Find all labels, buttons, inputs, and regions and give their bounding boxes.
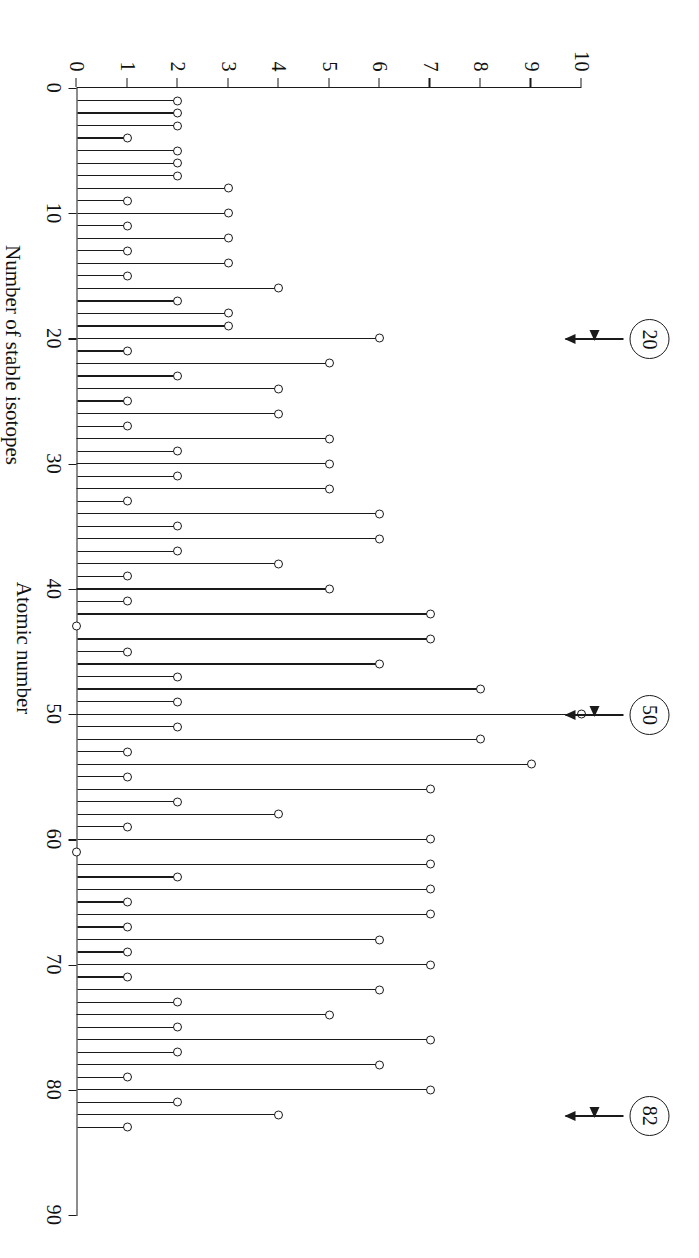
stem-marker bbox=[425, 960, 434, 969]
stem-marker bbox=[375, 935, 384, 944]
stem-marker bbox=[122, 221, 131, 230]
y-tick bbox=[126, 78, 127, 87]
stem-marker bbox=[122, 897, 131, 906]
stem-marker bbox=[375, 334, 384, 343]
stem-line bbox=[77, 1089, 430, 1090]
stem-marker bbox=[122, 271, 131, 280]
x-tick-label: 90 bbox=[43, 1205, 63, 1226]
stem-marker bbox=[324, 459, 333, 468]
x-tick-label: 20 bbox=[43, 328, 63, 349]
stem-marker bbox=[173, 697, 182, 706]
stem-line bbox=[77, 438, 329, 439]
arrow-head-icon bbox=[564, 334, 575, 344]
stem-marker bbox=[173, 159, 182, 168]
x-tick-label: 0 bbox=[43, 83, 63, 94]
stem-line bbox=[77, 964, 430, 965]
stem-marker bbox=[223, 309, 232, 318]
stem-line bbox=[77, 1039, 430, 1040]
x-tick bbox=[68, 88, 76, 89]
annotation-arrow-icon bbox=[565, 338, 623, 340]
y-tick bbox=[176, 78, 177, 87]
stem-marker bbox=[425, 1035, 434, 1044]
x-tick bbox=[68, 213, 76, 214]
stem-marker bbox=[173, 797, 182, 806]
stem-line bbox=[77, 1002, 178, 1003]
stem-line bbox=[77, 200, 127, 201]
stem-marker bbox=[122, 597, 131, 606]
stem-line bbox=[77, 876, 178, 877]
stem-marker bbox=[173, 121, 182, 130]
stem-line bbox=[77, 814, 279, 815]
stem-marker bbox=[122, 572, 131, 581]
stem-marker bbox=[173, 722, 182, 731]
stem-marker bbox=[122, 747, 131, 756]
stem-marker bbox=[122, 772, 131, 781]
stem-line bbox=[77, 801, 178, 802]
x-tick bbox=[68, 338, 76, 339]
stem-marker bbox=[173, 472, 182, 481]
stem-line bbox=[77, 638, 430, 639]
stem-line bbox=[77, 1014, 329, 1015]
stem-line bbox=[77, 1027, 178, 1028]
stem-marker bbox=[324, 1010, 333, 1019]
annotation-arrow-icon bbox=[565, 714, 623, 716]
stem-marker bbox=[122, 397, 131, 406]
stem-marker bbox=[425, 910, 434, 919]
x-tick-label: 80 bbox=[43, 1079, 63, 1100]
stem-line bbox=[77, 501, 127, 502]
stem-marker bbox=[173, 1098, 182, 1107]
stem-line bbox=[77, 400, 127, 401]
stem-marker bbox=[526, 760, 535, 769]
stem-line bbox=[77, 213, 228, 214]
y-tick bbox=[378, 78, 379, 87]
stem-line bbox=[77, 926, 127, 927]
stem-marker bbox=[324, 484, 333, 493]
stem-line bbox=[77, 1064, 380, 1065]
stem-marker bbox=[173, 109, 182, 118]
stem-line bbox=[77, 313, 228, 314]
arrow-head-icon bbox=[564, 1111, 575, 1121]
stem-marker bbox=[274, 1110, 283, 1119]
stem-marker bbox=[122, 196, 131, 205]
stem-line bbox=[77, 538, 380, 539]
stem-marker bbox=[72, 622, 81, 631]
stem-line bbox=[77, 976, 127, 977]
stem-marker bbox=[122, 647, 131, 656]
stem-line bbox=[77, 688, 481, 689]
y-tick-label: 3 bbox=[218, 44, 238, 72]
x-tick bbox=[68, 589, 76, 590]
stem-line bbox=[77, 300, 178, 301]
stem-line bbox=[77, 601, 127, 602]
stem-line bbox=[77, 388, 279, 389]
stem-line bbox=[77, 137, 127, 138]
stem-line bbox=[77, 563, 279, 564]
stem-marker bbox=[122, 134, 131, 143]
stem-marker bbox=[173, 1023, 182, 1032]
stem-marker bbox=[173, 146, 182, 155]
stem-line bbox=[77, 1102, 178, 1103]
stem-marker bbox=[122, 922, 131, 931]
x-tick-label: 50 bbox=[43, 704, 63, 725]
stem-marker bbox=[223, 209, 232, 218]
annotation-arrow-icon bbox=[565, 1115, 623, 1117]
stem-marker bbox=[122, 497, 131, 506]
stem-marker bbox=[173, 872, 182, 881]
stem-line bbox=[77, 125, 178, 126]
stem-marker bbox=[274, 409, 283, 418]
magic-number-annotation-82: 82 bbox=[565, 1096, 669, 1136]
stem-marker bbox=[476, 685, 485, 694]
stem-marker bbox=[122, 1123, 131, 1132]
stem-line bbox=[77, 901, 127, 902]
stem-marker bbox=[173, 372, 182, 381]
stem-line bbox=[77, 175, 178, 176]
stem-line bbox=[77, 288, 279, 289]
y-tick-label: 0 bbox=[67, 44, 87, 72]
stem-marker bbox=[223, 184, 232, 193]
stem-marker bbox=[425, 1085, 434, 1094]
stem-line bbox=[77, 839, 430, 840]
stem-line bbox=[77, 463, 329, 464]
y-tick bbox=[227, 78, 228, 87]
figure-page: 0102030405060708090 012345678910 205082 … bbox=[0, 0, 699, 1258]
stem-line bbox=[77, 263, 228, 264]
stem-marker bbox=[173, 447, 182, 456]
